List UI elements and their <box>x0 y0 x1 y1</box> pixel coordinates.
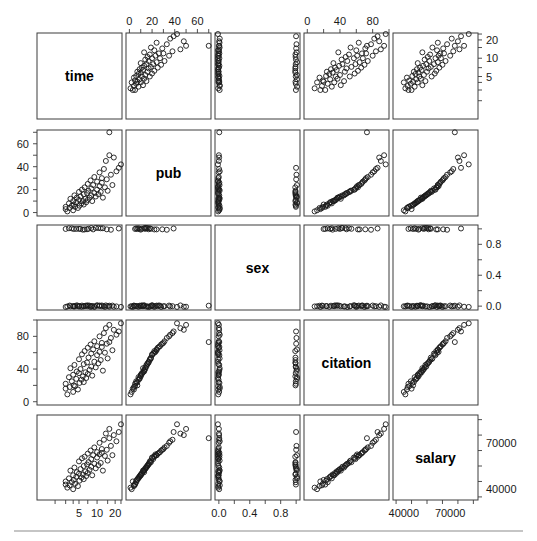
data-point <box>76 459 81 464</box>
data-point <box>110 183 115 188</box>
data-point <box>448 53 453 58</box>
panel-sex-vs-pub <box>126 225 211 310</box>
data-point <box>377 39 382 44</box>
panel-citation-vs-salary <box>393 320 478 405</box>
panel-salary-vs-sex <box>215 415 300 500</box>
data-point <box>116 430 121 435</box>
data-point <box>215 162 220 167</box>
panel-frame <box>126 415 211 500</box>
data-point <box>164 42 169 47</box>
axis-tick-label: 0.0 <box>486 300 501 312</box>
data-point <box>175 321 180 326</box>
data-point <box>178 47 183 52</box>
panel-pub-vs-pub: pub <box>126 130 211 216</box>
data-point <box>206 43 211 48</box>
data-point <box>167 53 172 58</box>
data-point <box>65 392 70 397</box>
data-point <box>142 50 147 55</box>
data-point <box>72 362 77 367</box>
data-point <box>90 473 95 478</box>
axis-citation-left: 04080 <box>17 320 37 408</box>
data-point <box>375 226 380 231</box>
data-point <box>445 42 450 47</box>
diagonal-label-time: time <box>65 68 94 84</box>
panel-citation-vs-time <box>37 320 123 405</box>
panel-citation-vs-sex <box>215 320 300 405</box>
data-point <box>363 227 368 232</box>
data-point <box>466 32 471 37</box>
data-point <box>111 433 116 438</box>
panel-time-vs-time: time <box>37 33 122 119</box>
axis-tick-label: 0.0 <box>211 507 226 519</box>
data-point <box>111 155 116 160</box>
data-point <box>462 153 467 158</box>
axis-salary-right: 4000070000 <box>478 420 517 497</box>
panel-time-vs-citation <box>304 32 389 119</box>
data-point <box>118 422 123 427</box>
data-point <box>184 426 189 431</box>
data-point <box>217 130 222 135</box>
data-point <box>294 341 299 346</box>
data-point <box>369 227 374 232</box>
data-point <box>108 172 113 177</box>
axis-tick-label: 40 <box>17 363 29 375</box>
axis-tick-label: 0.4 <box>486 269 501 281</box>
data-point <box>459 226 464 231</box>
data-point <box>162 59 167 64</box>
data-point <box>421 72 426 77</box>
data-point <box>352 71 357 76</box>
data-point <box>104 177 109 182</box>
data-point <box>138 61 143 66</box>
diagonal-label-citation: citation <box>322 355 372 371</box>
data-point <box>382 153 387 158</box>
data-point <box>370 53 375 58</box>
axis-tick-label: 0 <box>304 15 310 27</box>
data-point <box>97 334 102 339</box>
data-point <box>415 61 420 66</box>
axis-time-right: 51020 <box>478 34 498 101</box>
data-point <box>336 50 341 55</box>
data-point <box>435 40 440 45</box>
data-point <box>383 32 388 37</box>
data-point <box>360 56 365 61</box>
panel-frame <box>215 320 300 405</box>
data-point <box>102 185 107 190</box>
panel-frame <box>37 225 122 310</box>
data-point <box>171 329 176 334</box>
data-point <box>92 175 97 180</box>
data-point <box>110 348 115 353</box>
data-point <box>71 389 76 394</box>
data-point <box>294 34 299 39</box>
data-point <box>449 36 454 41</box>
data-point <box>170 49 175 54</box>
data-point <box>102 453 107 458</box>
data-point <box>101 331 106 336</box>
panel-frame <box>304 33 389 119</box>
axis-tick-label: 5 <box>76 507 82 519</box>
data-point <box>107 426 112 431</box>
axis-tick-label: 70000 <box>435 507 466 519</box>
axis-tick-label: 0.8 <box>486 238 501 250</box>
data-point <box>206 436 211 441</box>
data-point <box>110 453 115 458</box>
data-point <box>90 373 95 378</box>
data-point <box>430 45 435 50</box>
data-point <box>364 436 369 441</box>
data-point <box>108 443 113 448</box>
panel-time-vs-salary <box>393 32 478 119</box>
data-point <box>443 59 448 64</box>
data-point <box>365 59 370 64</box>
data-point <box>294 165 299 170</box>
data-point <box>102 350 107 355</box>
panel-pub-vs-time <box>37 130 123 216</box>
data-point <box>294 329 299 334</box>
data-point <box>359 65 364 70</box>
data-point <box>452 340 457 345</box>
data-point <box>105 356 110 361</box>
data-point <box>215 321 220 326</box>
axis-salary-bottom: 4000070000 <box>389 500 474 519</box>
axis-tick-label: 40000 <box>389 507 420 519</box>
data-point <box>459 34 464 39</box>
panel-sex-vs-sex: sex <box>215 225 300 310</box>
data-point <box>435 48 440 53</box>
